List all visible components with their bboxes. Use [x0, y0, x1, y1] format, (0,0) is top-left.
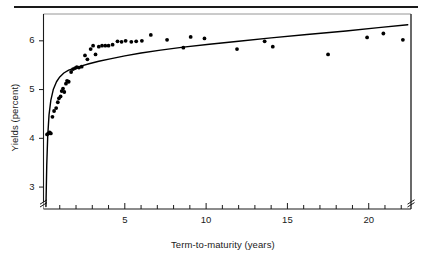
x-tick-label-20: 20: [359, 214, 379, 225]
data-point: [62, 90, 66, 94]
data-point: [401, 38, 405, 42]
data-point: [129, 40, 133, 44]
data-point: [381, 32, 385, 36]
data-point: [67, 80, 71, 84]
data-point: [100, 44, 104, 48]
data-point: [86, 57, 90, 61]
data-point: [134, 39, 138, 43]
data-point: [326, 53, 330, 57]
data-point: [61, 87, 65, 91]
x-axis-title: Term-to-maturity (years): [171, 239, 275, 250]
data-point: [140, 39, 144, 43]
data-point: [181, 46, 185, 50]
data-point: [124, 39, 128, 43]
data-point: [365, 36, 369, 40]
data-point: [91, 44, 95, 48]
data-point: [116, 39, 120, 43]
data-point: [103, 44, 107, 48]
data-point: [189, 35, 193, 39]
data-point: [49, 132, 53, 136]
data-point: [149, 33, 153, 37]
data-point: [94, 53, 98, 57]
data-point: [271, 45, 275, 49]
data-point: [165, 38, 169, 42]
data-point: [97, 45, 101, 49]
x-tick-label-10: 10: [196, 214, 216, 225]
data-point: [59, 94, 63, 98]
data-point: [51, 115, 55, 119]
data-point: [89, 47, 93, 51]
y-tick-label-5: 5: [21, 83, 35, 94]
y-tick-label-4: 4: [21, 132, 35, 143]
y-axis-title: Yields (percent): [9, 72, 20, 164]
data-point: [111, 43, 115, 47]
x-tick-label-15: 15: [277, 214, 297, 225]
y-tick-label-6: 6: [21, 34, 35, 45]
data-point: [120, 40, 124, 44]
x-tick-label-5: 5: [115, 214, 135, 225]
data-point: [56, 100, 60, 104]
y-tick-label-3: 3: [21, 181, 35, 192]
data-point: [83, 54, 87, 58]
chart-figure: Term-to-maturity (years) Yields (percent…: [0, 0, 430, 262]
data-point: [235, 47, 239, 51]
plot-frame: [44, 14, 412, 209]
data-point: [54, 106, 58, 110]
data-point: [107, 44, 111, 48]
data-point: [203, 36, 207, 40]
data-point: [263, 39, 267, 43]
data-point: [80, 65, 84, 69]
fitted-curve-line: [46, 25, 408, 207]
